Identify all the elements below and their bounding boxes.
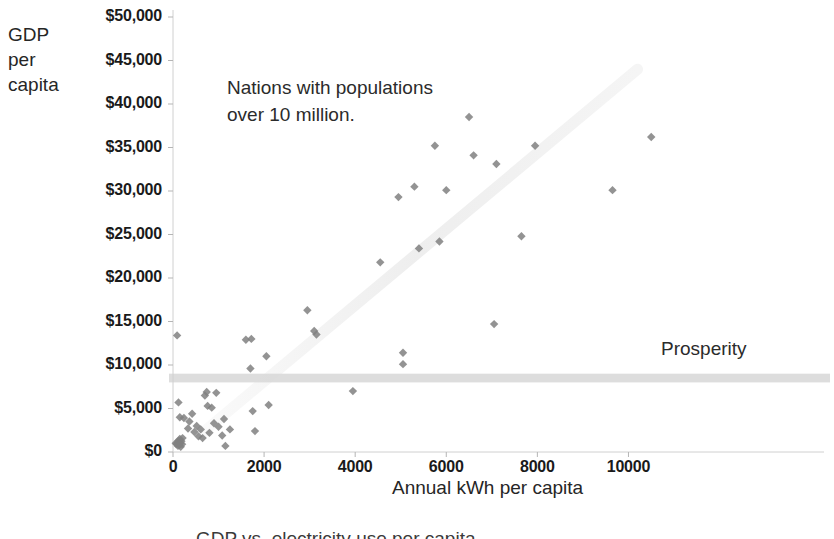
data-point (376, 258, 384, 266)
data-point (251, 427, 259, 435)
data-point (394, 193, 402, 201)
footer-cut-off-text: GDP vs. electricity use per capita (196, 528, 475, 539)
data-point (173, 331, 181, 339)
data-point (247, 335, 255, 343)
data-point (399, 349, 407, 357)
data-point (399, 360, 407, 368)
data-point (188, 410, 196, 418)
annotation-population-note: Nations with populations over 10 million… (227, 74, 537, 128)
data-point (349, 387, 357, 395)
data-point (490, 320, 498, 328)
annotation-line-2: over 10 million. (227, 101, 537, 128)
data-point (246, 364, 254, 372)
data-point (608, 186, 616, 194)
data-point (647, 133, 655, 141)
data-point (218, 431, 226, 439)
data-point (517, 232, 525, 240)
annotation-line-1: Nations with populations (227, 74, 537, 101)
data-point (226, 425, 234, 433)
data-point (431, 142, 439, 150)
data-point (212, 389, 220, 397)
data-point (303, 306, 311, 314)
data-point (262, 352, 270, 360)
scatter-chart: GDP per capita $0$5,000$10,000$15,000$20… (0, 0, 834, 539)
prosperity-band (169, 374, 830, 383)
prosperity-label: Prosperity (661, 338, 747, 360)
data-point (264, 401, 272, 409)
data-point (221, 442, 229, 450)
data-point (469, 151, 477, 159)
data-point (410, 182, 418, 190)
data-point (442, 186, 450, 194)
data-point (249, 407, 257, 415)
data-point (492, 160, 500, 168)
data-point (174, 398, 182, 406)
